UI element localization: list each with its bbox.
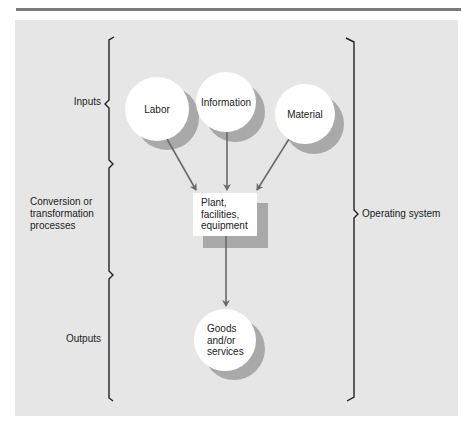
process-label: Plant, facilities, equipment [201, 197, 257, 232]
output-label: Goods and/or services [207, 323, 257, 358]
process-line-2: facilities, [201, 209, 257, 221]
stage-label-inputs: Inputs [30, 96, 101, 108]
material-label: Material [275, 109, 335, 121]
output-line-3: services [207, 346, 257, 358]
output-line-2: and/or [207, 335, 257, 347]
system-label: Operating system [362, 208, 462, 220]
information-label: Information [196, 97, 256, 109]
output-line-1: Goods [207, 323, 257, 335]
process-line-3: equipment [201, 220, 257, 232]
labor-label: Labor [127, 104, 187, 116]
stage-label-outputs: Outputs [30, 333, 101, 345]
conversion-line-3: processes [30, 220, 100, 232]
conversion-line-2: transformation [30, 208, 100, 220]
process-line-1: Plant, [201, 197, 257, 209]
stage-label-conversion: Conversion or transformation processes [30, 196, 100, 232]
stage-brace [105, 37, 114, 401]
system-brace [346, 38, 358, 401]
conversion-line-1: Conversion or [30, 196, 100, 208]
